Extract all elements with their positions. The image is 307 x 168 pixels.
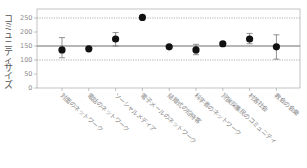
community-size-chart: コミュニティサイズ 050100150200250 対面のネットワーク電話のネッ…: [0, 0, 307, 168]
data-point: [246, 35, 253, 42]
data-point: [166, 43, 173, 50]
y-axis-label: コミュニティサイズ: [4, 14, 13, 90]
x-tick-label: 科学者のネットワーク: [193, 91, 244, 138]
y-tick-label: 50: [24, 70, 32, 78]
data-point: [273, 43, 280, 50]
y-tick-label: 200: [20, 28, 32, 36]
x-tick-label: 教会の会衆: [273, 91, 301, 118]
reference-lines: [37, 18, 300, 60]
y-tick-label: 250: [20, 14, 32, 22]
data-point: [139, 14, 146, 21]
y-axis-title: コミュニティサイズ: [4, 14, 13, 90]
data-point: [192, 46, 199, 53]
data-points: [58, 14, 280, 59]
data-point: [112, 35, 119, 42]
data-point: [58, 46, 65, 53]
y-tick-label: 150: [20, 42, 32, 50]
y-axis-ticks: 050100150200250: [20, 14, 37, 92]
data-point: [219, 40, 226, 47]
data-point: [85, 45, 92, 52]
x-axis-ticks: 対面のネットワーク電話のネットワークソーシャルメディア電子メールのネットワーク結…: [59, 88, 302, 146]
y-tick-label: 100: [20, 56, 32, 64]
y-tick-label: 0: [28, 84, 32, 92]
x-tick-label: 村落社会: [246, 91, 271, 114]
